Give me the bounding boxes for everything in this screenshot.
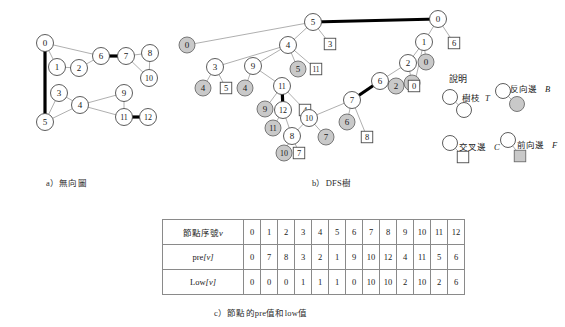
dfs-gray-node-9-4-label: 9	[263, 104, 268, 114]
table-cell-r1-c5: 1	[329, 245, 346, 270]
legend-tree-node-bottom	[457, 103, 472, 118]
dfs-tree-node-3-label: 3	[213, 62, 218, 72]
dfs-tree-node-8-label: 8	[290, 131, 295, 141]
undirected-node-5-label: 5	[43, 117, 48, 127]
table-cell-r1-c3: 3	[295, 245, 312, 270]
legend-forward-square	[514, 150, 526, 162]
table-cell-r0-c5: 5	[329, 220, 346, 245]
dfs-tree-edge-0-5	[313, 19, 438, 22]
legend-cross-edge-label: 交叉邊	[459, 142, 486, 152]
dfs-tree-node-1-label: 1	[422, 37, 427, 47]
table-cell-r2-c8: 10	[380, 270, 397, 295]
legend-forward-edge-italic: F	[551, 140, 558, 150]
dfs-tree-node-7-label: 7	[350, 95, 355, 105]
table-row: 節點序號v0123456789101112	[163, 220, 465, 245]
table-row: pre[v]0783219101241156	[163, 245, 465, 270]
legend-tree-edge-label: 樹枝	[462, 93, 480, 103]
table-cell-r2-c7: 10	[363, 270, 380, 295]
dfs-tree-node-0-label: 0	[436, 14, 441, 24]
pre-low-table: 節點序號v0123456789101112pre[v]0783219101241…	[162, 219, 465, 295]
table-cell-r1-c0: 0	[244, 245, 261, 270]
undirected-node-11-label: 11	[120, 113, 128, 122]
dfs-tree-node-5-label: 5	[311, 17, 316, 27]
dfs-gray-node-0-10-label: 0	[424, 57, 429, 67]
table-cell-r0-c9: 9	[397, 220, 414, 245]
legend-back-node-top	[496, 84, 511, 99]
table-cell-r1-c2: 8	[278, 245, 295, 270]
table-cell-r0-c6: 6	[346, 220, 363, 245]
dfs-square-node-8-5-label: 8	[365, 132, 369, 142]
table-cell-r1-c6: 9	[346, 245, 363, 270]
dfs-gray-node-5-1-label: 5	[296, 64, 301, 74]
table-cell-r1-c11: 5	[431, 245, 448, 270]
dfs-square-node-5-2-label: 5	[224, 83, 228, 93]
undirected-node-3-label: 3	[57, 88, 62, 98]
table-cell-r0-c10: 10	[414, 220, 431, 245]
legend-forward-node	[501, 133, 516, 148]
undirected-node-6-label: 6	[99, 51, 104, 61]
table-cell-r0-c7: 7	[363, 220, 380, 245]
legend-tree-edge-italic: T	[485, 93, 491, 103]
dfs-square-node-3-0-label: 3	[328, 39, 332, 49]
table-cell-r1-c7: 10	[363, 245, 380, 270]
caption-c: c）節點的pre值和low值	[214, 306, 307, 318]
dfs-gray-node-2-9-label: 2	[394, 81, 399, 91]
table-cell-r0-c12: 12	[448, 220, 465, 245]
table-row-header: pre[v]	[163, 245, 244, 270]
figure-root: 0126781034591112054491110762013115478060…	[0, 0, 565, 327]
dfs-gray-node-7-7-label: 7	[324, 132, 329, 142]
dfs-gray-node-4-3-label: 4	[243, 83, 248, 93]
table-cell-r1-c1: 7	[261, 245, 278, 270]
table-cell-r2-c1: 0	[261, 270, 278, 295]
legend-forward-edge-label: 前向邊	[517, 140, 544, 150]
dfs-tree-node-11-label: 11	[278, 82, 286, 91]
table-row-header: Low[v]	[163, 270, 244, 295]
table-cell-r2-c9: 2	[397, 270, 414, 295]
dfs-tree-node-10-label: 10	[305, 114, 313, 123]
undirected-node-2-label: 2	[77, 63, 82, 73]
undirected-node-1-label: 1	[55, 62, 60, 72]
dfs-gray-node-6-8-label: 6	[345, 117, 350, 127]
legend-cross-square	[457, 151, 469, 163]
dfs-square-node-7-4-label: 7	[297, 148, 301, 158]
dfs-tree-node-4-label: 4	[286, 40, 291, 50]
table-cell-r0-c1: 1	[261, 220, 278, 245]
table-cell-r1-c8: 12	[380, 245, 397, 270]
undirected-node-7-label: 7	[124, 51, 129, 61]
dfs-square-node-0-6-label: 0	[412, 81, 416, 91]
undirected-node-0-label: 0	[43, 38, 48, 48]
dfs-tree-node-12-label: 12	[279, 106, 287, 115]
table-cell-r2-c6: 0	[346, 270, 363, 295]
undirected-node-9-label: 9	[122, 88, 127, 98]
dfs-gray-node-10-6-label: 10	[280, 149, 288, 158]
table-cell-r1-c12: 6	[448, 245, 465, 270]
table-cell-r1-c9: 4	[397, 245, 414, 270]
table-cell-r0-c8: 8	[380, 220, 397, 245]
legend-back-edge-italic: B	[545, 84, 550, 94]
table-row: Low[v]0001110101021026	[163, 270, 465, 295]
table-cell-r2-c3: 1	[295, 270, 312, 295]
table-cell-r2-c10: 10	[414, 270, 431, 295]
table-cell-r0-c0: 0	[244, 220, 261, 245]
table-cell-r0-c3: 3	[295, 220, 312, 245]
undirected-node-4-label: 4	[78, 100, 83, 110]
legend-cross-node	[443, 136, 458, 151]
table-cell-r2-c12: 6	[448, 270, 465, 295]
caption-b: b）DFS樹	[312, 176, 351, 188]
dfs-tree-node-6-label: 6	[378, 76, 383, 86]
legend-back-node-bottom	[510, 97, 525, 112]
dfs-tree-node-2-label: 2	[406, 58, 411, 68]
table-cell-r0-c11: 11	[431, 220, 448, 245]
table-cell-r0-c2: 2	[278, 220, 295, 245]
legend-cross-edge-italic: C	[494, 142, 500, 152]
table-cell-r2-c2: 0	[278, 270, 295, 295]
legend-tree-node-top	[443, 90, 458, 105]
legend-back-edge-label: 反向邊	[510, 84, 537, 94]
table-cell-r2-c0: 0	[244, 270, 261, 295]
undirected-node-8-label: 8	[148, 48, 153, 58]
table-cell-r2-c11: 2	[431, 270, 448, 295]
table-cell-r0-c4: 4	[312, 220, 329, 245]
caption-a: a）無向圖	[46, 176, 87, 188]
dfs-square-node-11-1-label: 11	[312, 65, 319, 74]
dfs-square-node-6-7-label: 6	[452, 38, 456, 48]
